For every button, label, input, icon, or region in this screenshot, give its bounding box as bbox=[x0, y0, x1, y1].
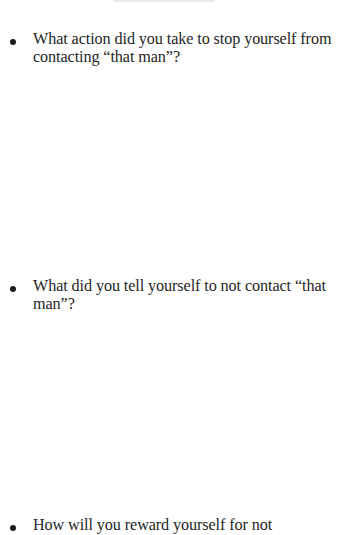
bullet-icon bbox=[10, 286, 16, 292]
question-text: How will you reward yourself for not bbox=[33, 516, 351, 534]
bullet-icon bbox=[10, 525, 16, 531]
bullet-icon bbox=[10, 39, 16, 45]
document-page: What action did you take to stop yoursel… bbox=[0, 0, 353, 535]
cropped-header-line bbox=[113, 0, 215, 3]
question-text: What did you tell yourself to not contac… bbox=[33, 277, 351, 313]
question-text: What action did you take to stop yoursel… bbox=[33, 30, 351, 66]
